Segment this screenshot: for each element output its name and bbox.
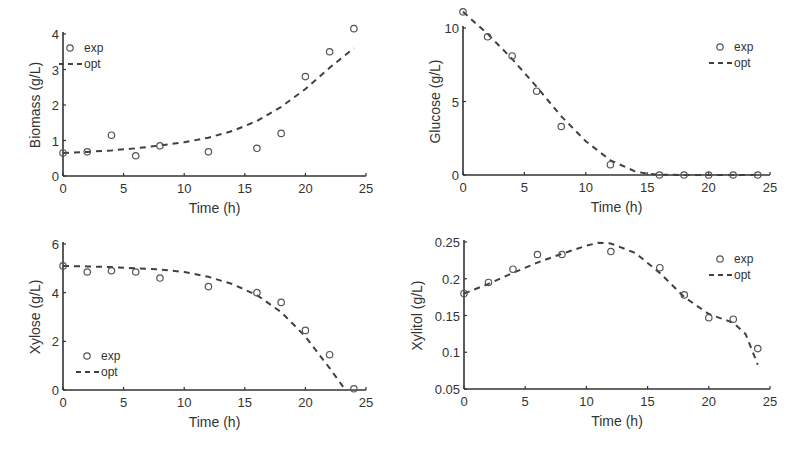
exp-point [254, 289, 260, 295]
x-tick-label: 0 [460, 394, 467, 409]
exp-point [278, 299, 284, 305]
legend-exp-label: exp [734, 40, 754, 54]
xylitol-plot: 05101520250.050.10.150.20.25Time (h)Xyli… [400, 225, 800, 450]
exp-point [351, 25, 357, 31]
y-axis-label: Xylitol (g/L) [409, 280, 425, 350]
x-tick-label: 15 [640, 394, 654, 409]
exp-point [558, 123, 564, 129]
y-tick-label: 0 [52, 169, 59, 184]
x-tick-label: 20 [298, 395, 312, 410]
exp-point [133, 269, 139, 275]
xylose-chart: 05101520250246Time (h)Xylose (g/L)expopt [0, 225, 400, 451]
legend-exp-label: exp [101, 349, 121, 363]
exp-point [657, 265, 663, 271]
exp-point [351, 386, 357, 392]
y-tick-label: 0.25 [435, 235, 460, 250]
x-tick-label: 25 [763, 180, 777, 195]
exp-point [278, 130, 284, 136]
y-tick-label: 2 [52, 98, 59, 113]
x-tick-label: 10 [579, 180, 593, 195]
x-tick-label: 25 [763, 394, 777, 409]
y-tick-label: 0.15 [435, 309, 460, 324]
y-tick-label: 0.2 [442, 272, 460, 287]
biomass-plot: 051015202501234Time (h)Biomass (g/L)expo… [0, 0, 400, 225]
x-tick-label: 15 [238, 395, 252, 410]
exp-point [84, 269, 90, 275]
y-tick-label: 0.05 [435, 382, 460, 397]
exp-point [108, 268, 114, 274]
glucose-chart: 05101520250510Time (h)Glucose (g/L)expop… [400, 0, 800, 225]
legend-exp-marker [84, 353, 90, 359]
exp-point [205, 149, 211, 155]
y-tick-label: 5 [452, 95, 459, 110]
x-tick-label: 0 [459, 180, 466, 195]
exp-point [534, 251, 540, 257]
exp-point [205, 283, 211, 289]
exp-point [755, 345, 761, 351]
xylitol-chart: 05101520250.050.10.150.20.25Time (h)Xyli… [400, 225, 800, 451]
x-axis-label: Time (h) [189, 414, 241, 430]
legend-exp-marker [717, 256, 723, 262]
y-tick-label: 4 [52, 27, 59, 42]
y-tick-label: 6 [52, 237, 59, 252]
exp-point [133, 153, 139, 159]
x-tick-label: 10 [177, 181, 191, 196]
exp-point [510, 266, 516, 272]
x-tick-label: 15 [640, 180, 654, 195]
x-tick-label: 15 [238, 181, 252, 196]
exp-point [706, 315, 712, 321]
exp-point [157, 275, 163, 281]
exp-point [254, 145, 260, 151]
y-tick-label: 0 [52, 383, 59, 398]
exp-point [607, 162, 613, 168]
exp-point [326, 352, 332, 358]
x-tick-label: 25 [359, 395, 373, 410]
legend-opt-label: opt [734, 268, 751, 282]
glucose-plot: 05101520250510Time (h)Glucose (g/L)expop… [400, 0, 800, 225]
x-tick-label: 5 [522, 394, 529, 409]
y-tick-label: 4 [52, 286, 59, 301]
y-axis-label: Glucose (g/L) [427, 59, 443, 143]
opt-curve [464, 243, 758, 365]
legend-exp-label: exp [84, 41, 104, 55]
legend-exp-label: exp [734, 252, 754, 266]
y-tick-label: 2 [52, 334, 59, 349]
exp-point [302, 73, 308, 79]
xylose-plot: 05101520250246Time (h)Xylose (g/L)expopt [0, 225, 400, 450]
x-tick-label: 25 [359, 181, 373, 196]
x-tick-label: 20 [702, 394, 716, 409]
x-axis-label: Time (h) [591, 413, 643, 429]
x-axis-label: Time (h) [591, 199, 643, 215]
exp-point [108, 132, 114, 138]
y-tick-label: 1 [52, 134, 59, 149]
x-tick-label: 5 [521, 180, 528, 195]
x-tick-label: 10 [177, 395, 191, 410]
y-tick-label: 10 [445, 21, 459, 36]
x-tick-label: 5 [120, 181, 127, 196]
exp-point [608, 248, 614, 254]
y-axis-label: Xylose (g/L) [27, 280, 43, 355]
exp-point [326, 49, 332, 55]
x-tick-label: 5 [120, 395, 127, 410]
opt-curve [63, 48, 354, 153]
x-tick-label: 10 [579, 394, 593, 409]
y-tick-label: 0 [452, 168, 459, 183]
legend-exp-marker [67, 45, 73, 51]
x-tick-label: 20 [701, 180, 715, 195]
exp-point [730, 316, 736, 322]
x-tick-label: 20 [298, 181, 312, 196]
y-axis-label: Biomass (g/L) [27, 62, 43, 148]
x-axis-label: Time (h) [189, 200, 241, 216]
legend-opt-label: opt [84, 57, 101, 71]
exp-point [533, 88, 539, 94]
biomass-chart: 051015202501234Time (h)Biomass (g/L)expo… [0, 0, 400, 225]
legend-exp-marker [717, 44, 723, 50]
opt-curve [463, 12, 758, 175]
x-tick-label: 0 [59, 181, 66, 196]
y-tick-label: 3 [52, 63, 59, 78]
legend-opt-label: opt [101, 365, 118, 379]
exp-point [302, 327, 308, 333]
x-tick-label: 0 [59, 395, 66, 410]
legend-opt-label: opt [734, 56, 751, 70]
y-tick-label: 0.1 [442, 345, 460, 360]
